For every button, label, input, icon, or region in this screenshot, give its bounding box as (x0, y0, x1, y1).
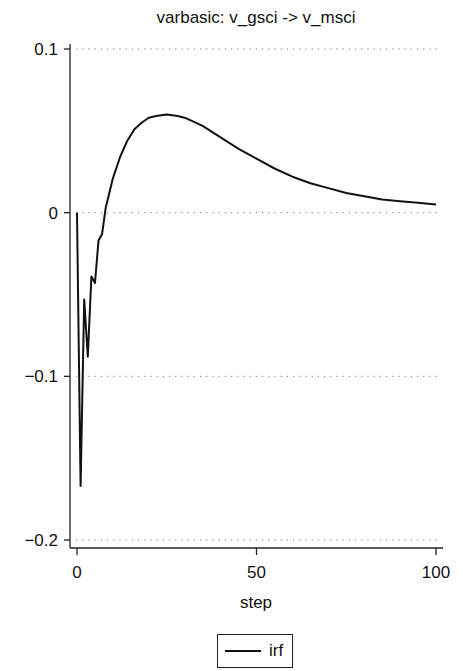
legend: irf (217, 634, 293, 668)
chart-title: varbasic: v_gsci -> v_msci (157, 8, 356, 27)
legend-label-irf: irf (269, 641, 283, 661)
x-axis-ticks: 050100 (72, 548, 450, 582)
y-tick-label: −0.1 (24, 367, 58, 386)
gridlines (76, 49, 440, 540)
y-tick-label: −0.2 (24, 531, 58, 550)
irf-chart: varbasic: v_gsci -> v_msci 0.10−0.1−0.2 … (0, 0, 463, 671)
x-axis-title: step (240, 593, 272, 612)
y-axis-ticks: 0.10−0.1−0.2 (24, 40, 70, 550)
y-tick-label: 0 (49, 204, 58, 223)
legend-line-swatch-icon (225, 650, 261, 652)
x-tick-label: 100 (422, 563, 450, 582)
y-tick-label: 0.1 (34, 40, 58, 59)
x-tick-label: 0 (72, 563, 81, 582)
irf-line (77, 115, 436, 487)
x-tick-label: 50 (247, 563, 266, 582)
